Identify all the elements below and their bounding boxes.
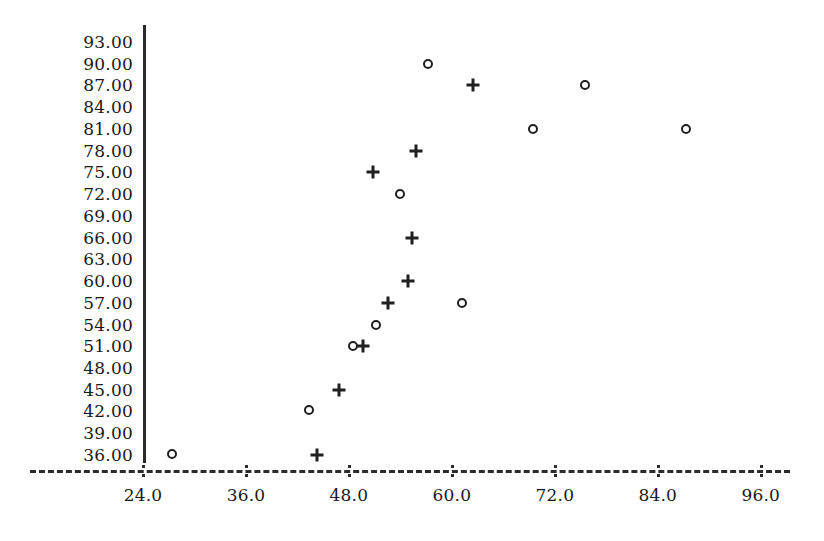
x-tick-mark xyxy=(142,474,145,477)
y-tick-label: 63.00 xyxy=(83,251,133,268)
data-point-circle xyxy=(395,189,405,199)
x-tick-label: 60.0 xyxy=(412,487,492,504)
x-tick-mark xyxy=(348,465,351,468)
x-tick-label: 24.0 xyxy=(103,487,183,504)
y-tick-label: 93.00 xyxy=(83,34,133,51)
x-tick-mark xyxy=(142,465,145,468)
data-point-plus xyxy=(467,79,480,92)
y-tick-label: 84.00 xyxy=(83,99,133,116)
x-tick-mark xyxy=(657,474,660,477)
y-tick-label: 87.00 xyxy=(83,77,133,94)
x-tick-mark xyxy=(760,474,763,477)
data-point-circle xyxy=(580,80,590,90)
y-tick-label: 51.00 xyxy=(83,338,133,355)
y-tick-label: 39.00 xyxy=(83,425,133,442)
x-tick-label: 72.0 xyxy=(515,487,595,504)
y-tick-label: 90.00 xyxy=(83,56,133,73)
y-axis-line xyxy=(143,25,146,463)
data-point-plus xyxy=(332,383,345,396)
data-point-plus xyxy=(405,231,418,244)
scatter-plot-figure: 93.0090.0087.0084.0081.0078.0075.0072.00… xyxy=(0,0,824,541)
data-point-plus xyxy=(402,275,415,288)
x-tick-mark xyxy=(245,465,248,468)
data-point-plus xyxy=(366,166,379,179)
y-tick-label: 42.00 xyxy=(83,403,133,420)
y-tick-label: 81.00 xyxy=(83,121,133,138)
x-tick-label: 36.0 xyxy=(206,487,286,504)
data-point-circle xyxy=(167,449,177,459)
y-tick-label: 60.00 xyxy=(83,273,133,290)
y-tick-label: 78.00 xyxy=(83,143,133,160)
x-tick-label: 84.0 xyxy=(618,487,698,504)
data-point-plus xyxy=(381,296,394,309)
y-tick-label: 48.00 xyxy=(83,360,133,377)
y-tick-label: 45.00 xyxy=(83,382,133,399)
y-tick-label: 75.00 xyxy=(83,164,133,181)
data-point-circle xyxy=(528,124,538,134)
x-tick-mark xyxy=(451,474,454,477)
y-tick-label: 72.00 xyxy=(83,186,133,203)
x-tick-mark xyxy=(451,465,454,468)
y-tick-label: 36.00 xyxy=(83,447,133,464)
y-tick-label: 57.00 xyxy=(83,295,133,312)
data-point-plus xyxy=(311,448,324,461)
data-point-circle xyxy=(371,320,381,330)
data-point-circle xyxy=(304,405,314,415)
x-tick-mark xyxy=(245,474,248,477)
data-point-circle xyxy=(423,59,433,69)
x-tick-label: 48.0 xyxy=(309,487,389,504)
x-tick-mark xyxy=(554,474,557,477)
data-point-plus xyxy=(356,340,369,353)
x-tick-mark xyxy=(348,474,351,477)
x-tick-mark xyxy=(554,465,557,468)
data-point-circle xyxy=(681,124,691,134)
x-axis-line xyxy=(30,470,790,473)
y-tick-label: 69.00 xyxy=(83,208,133,225)
x-tick-mark xyxy=(760,465,763,468)
y-tick-label: 66.00 xyxy=(83,230,133,247)
x-tick-label: 96.0 xyxy=(721,487,801,504)
x-tick-mark xyxy=(657,465,660,468)
y-tick-label: 54.00 xyxy=(83,317,133,334)
data-point-circle xyxy=(457,298,467,308)
data-point-plus xyxy=(409,144,422,157)
